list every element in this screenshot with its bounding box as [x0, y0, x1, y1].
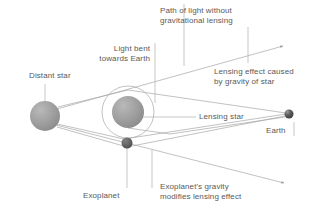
earth-body	[285, 110, 294, 119]
ray-bent-upper	[58, 90, 286, 113]
label-earth: Earth	[266, 126, 294, 136]
distant-star-body	[30, 101, 60, 131]
label-exoplanet-gravity-modifies-lensing: Exoplanet's gravity modifies lensing eff…	[160, 182, 270, 201]
label-light-bent-towards-earth: Light bent towards Earth	[80, 44, 150, 63]
label-exoplanet: Exoplanet	[83, 191, 138, 201]
label-lensing-star: Lensing star	[199, 112, 269, 122]
label-lensing-effect-caused-by-star: Lensing effect caused by gravity of star	[214, 67, 312, 86]
gravitational-lensing-diagram: Path of light without gravitational lens…	[0, 0, 313, 213]
lensing-star-body	[112, 96, 144, 128]
exoplanet-body	[122, 138, 133, 149]
label-path-without-lensing: Path of light without gravitational lens…	[160, 6, 255, 25]
label-distant-star: Distant star	[29, 71, 99, 81]
